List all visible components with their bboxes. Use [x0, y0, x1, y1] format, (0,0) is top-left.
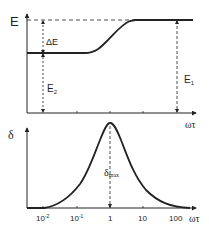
bottom-x-axis-label: ωτ	[189, 213, 200, 224]
delta-max-arrow-bottom	[108, 204, 112, 208]
x-tick-label-3: 10	[138, 214, 147, 223]
e2-label: E2	[47, 83, 58, 95]
loss-peak-curve	[27, 123, 190, 208]
delta-e-label: ΔE	[46, 37, 58, 47]
delta-max-label: δmax	[104, 167, 119, 178]
x-tick-label-2: 1	[108, 214, 113, 223]
bottom-panel: δ δmax 10-2 10-1 1 10 100 ωτ	[8, 123, 200, 224]
e1-arrow-bottom	[175, 109, 179, 113]
e2-arrow-top	[41, 20, 45, 24]
bottom-y-axis-label: δ	[8, 128, 14, 142]
e1-label: E1	[184, 74, 195, 86]
viscoelastic-diagram: E ΔE E2 E1 ωτ δ δmax 10-2 10-1 1 10 100 …	[0, 0, 209, 233]
x-tick-label-4: 100	[169, 214, 183, 223]
top-y-axis-label: E	[10, 14, 19, 29]
e2-arrow-bottom	[41, 109, 45, 113]
top-panel: E ΔE E2 E1 ωτ	[10, 14, 196, 130]
top-x-axis-label: ωτ	[185, 119, 196, 130]
x-tick-label-0: 10-2	[36, 213, 50, 223]
x-tick-label-1: 10-1	[70, 213, 84, 223]
